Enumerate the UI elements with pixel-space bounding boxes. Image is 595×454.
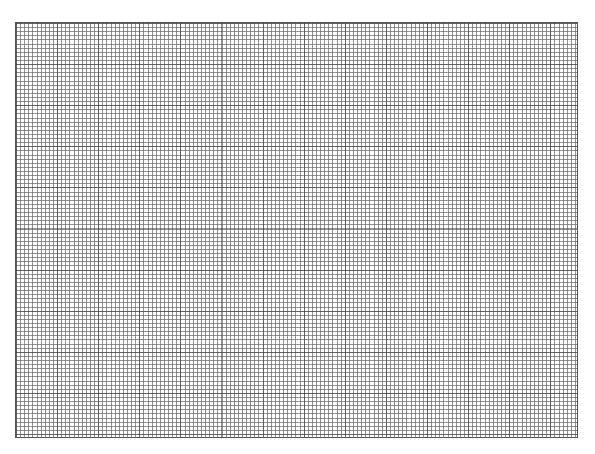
cropped-header-text: [0, 0, 595, 5]
graph-paper-grid: [15, 22, 578, 438]
